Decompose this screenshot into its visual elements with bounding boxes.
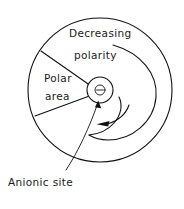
circled-minus-icon	[95, 85, 105, 95]
polar-area-label-line1: Polar	[44, 72, 72, 84]
polar-area-label-line2: area	[45, 90, 70, 102]
spiral-arrow-head	[97, 121, 110, 127]
decreasing-polarity-label-line1: Decreasing	[69, 27, 132, 39]
anionic-site-label: Anionic site	[8, 176, 73, 188]
leader-arrow-head	[95, 101, 101, 109]
anionic-site-diagram: Decreasing polarity Polar area Anionic s…	[0, 0, 184, 209]
decreasing-polarity-label-line2: polarity	[74, 49, 117, 61]
diagram-canvas: Decreasing polarity Polar area Anionic s…	[0, 0, 184, 209]
